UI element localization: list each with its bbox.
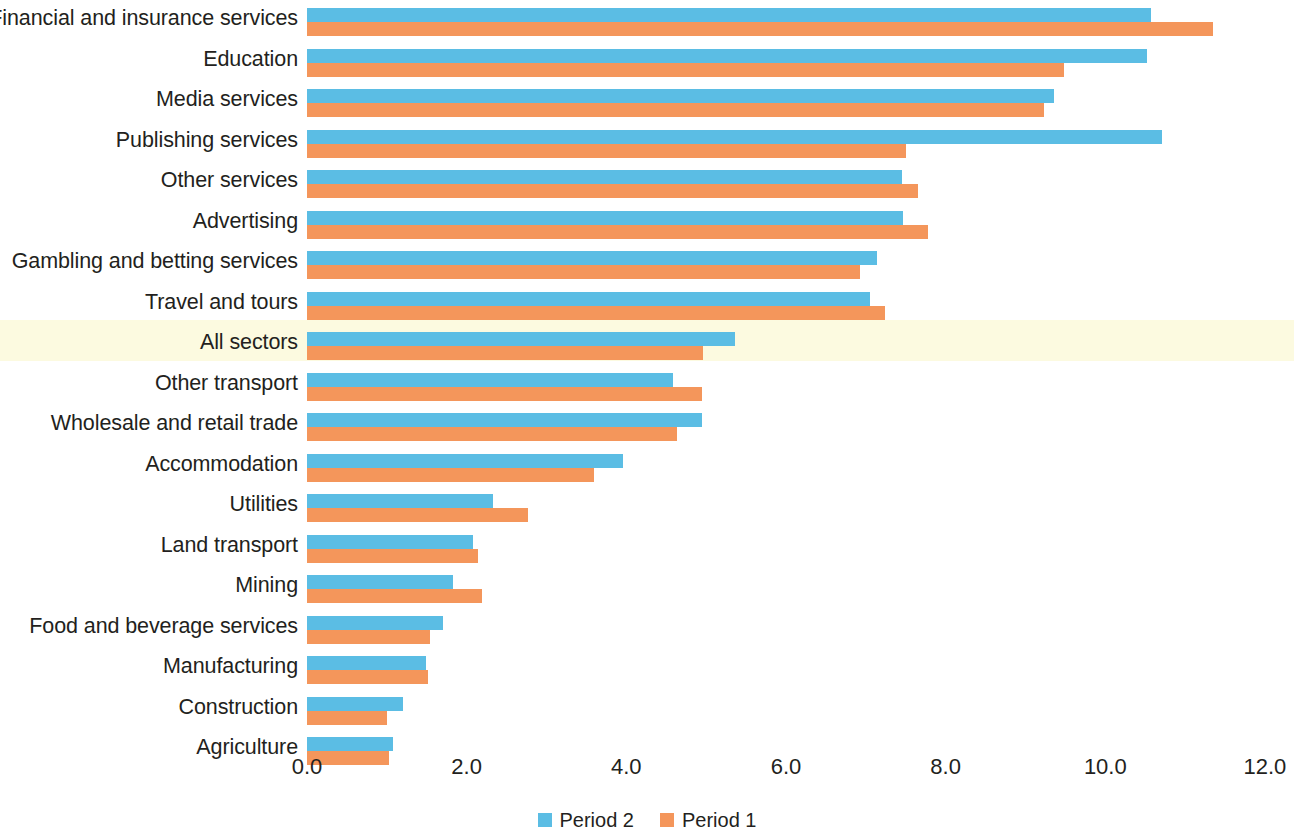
bar-period-2 [307,737,393,751]
bar-period-2 [307,89,1054,103]
bar-period-1 [307,427,677,441]
legend-label: Period 2 [560,809,635,831]
category-label: Other transport [0,368,298,398]
bar-period-1 [307,630,430,644]
bar-period-2 [307,8,1151,22]
x-axis-tick-label: 2.0 [407,752,527,782]
bar-period-1 [307,103,1044,117]
x-axis: 0.02.04.06.08.010.012.0 [0,752,1294,792]
x-axis-tick-label: 8.0 [886,752,1006,782]
category-label: Construction [0,692,298,722]
x-axis-tick-label: 12.0 [1205,752,1294,782]
plot-area: Financial and insurance servicesEducatio… [0,0,1294,760]
category-label: Manufacturing [0,651,298,681]
legend-item[interactable]: Period 1 [660,809,757,831]
bar-period-2 [307,535,473,549]
chart-row: Media services [0,84,1294,125]
chart-row: Construction [0,692,1294,733]
legend-item[interactable]: Period 2 [538,809,635,831]
category-label: Utilities [0,489,298,519]
bar-period-1 [307,711,387,725]
chart-row: Financial and insurance services [0,3,1294,44]
chart-row: Utilities [0,489,1294,530]
legend-swatch-icon [538,813,552,827]
x-axis-tick-label: 4.0 [566,752,686,782]
chart-row: Manufacturing [0,651,1294,692]
bar-period-1 [307,184,918,198]
category-label: Other services [0,165,298,195]
chart-row: Wholesale and retail trade [0,408,1294,449]
category-label: Publishing services [0,125,298,155]
bar-period-2 [307,130,1162,144]
category-label: Wholesale and retail trade [0,408,298,438]
bar-period-1 [307,306,885,320]
bar-period-1 [307,144,906,158]
chart-row: Advertising [0,206,1294,247]
category-label: Food and beverage services [0,611,298,641]
legend-swatch-icon [660,813,674,827]
chart-row: Education [0,44,1294,85]
bar-period-1 [307,508,528,522]
x-axis-tick-label: 6.0 [726,752,846,782]
bar-period-1 [307,346,703,360]
category-label: Land transport [0,530,298,560]
bar-period-2 [307,616,443,630]
category-label: Gambling and betting services [0,246,298,276]
category-label: Media services [0,84,298,114]
category-label: Mining [0,570,298,600]
chart-row: Mining [0,570,1294,611]
bar-period-1 [307,468,594,482]
chart-row: Accommodation [0,449,1294,490]
bar-period-1 [307,225,928,239]
category-label: Accommodation [0,449,298,479]
bar-period-1 [307,265,860,279]
bar-period-2 [307,211,903,225]
chart-row: Other services [0,165,1294,206]
chart-row: Food and beverage services [0,611,1294,652]
chart-row: Other transport [0,368,1294,409]
bar-period-2 [307,373,673,387]
bar-period-2 [307,656,426,670]
category-label: Advertising [0,206,298,236]
bar-period-2 [307,251,877,265]
bar-period-2 [307,332,735,346]
category-label: Financial and insurance services [0,3,298,33]
bar-period-2 [307,49,1147,63]
chart-row: Publishing services [0,125,1294,166]
category-label: Education [0,44,298,74]
bar-period-1 [307,589,482,603]
bar-period-1 [307,63,1064,77]
bar-period-1 [307,387,702,401]
chart-row: All sectors [0,327,1294,368]
x-axis-tick-label: 0.0 [247,752,367,782]
chart-row: Travel and tours [0,287,1294,328]
chart-legend: Period 2Period 1 [0,805,1294,835]
chart-row: Land transport [0,530,1294,571]
bar-period-2 [307,170,902,184]
category-label: All sectors [0,327,298,357]
bar-period-1 [307,22,1213,36]
horizontal-bar-chart: Financial and insurance servicesEducatio… [0,0,1294,838]
bar-period-2 [307,292,870,306]
bar-period-2 [307,494,493,508]
bar-period-2 [307,454,623,468]
bar-period-2 [307,697,403,711]
bar-period-2 [307,575,453,589]
chart-row: Gambling and betting services [0,246,1294,287]
x-axis-tick-label: 10.0 [1045,752,1165,782]
bar-period-1 [307,670,428,684]
bar-period-2 [307,413,702,427]
legend-label: Period 1 [682,809,757,831]
category-label: Travel and tours [0,287,298,317]
bar-period-1 [307,549,478,563]
